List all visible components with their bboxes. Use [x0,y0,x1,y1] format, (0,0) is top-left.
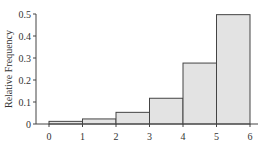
y-tick-label: 0.4 [19,31,32,42]
x-tick-label: 0 [47,131,52,142]
y-tick-label: 0 [26,119,31,130]
y-tick-label: 0.3 [19,53,32,64]
histogram-chart: 00.10.20.30.40.5 0123456 Relative Freque… [0,0,262,145]
histogram-bar [150,98,184,124]
x-tick-label: 6 [248,131,253,142]
y-axis-label: Relative Frequency [3,30,14,108]
x-tick-label: 4 [181,131,186,142]
y-tick-label: 0.2 [19,75,32,86]
x-axis: 0123456 [36,124,258,142]
histogram-bar [183,63,217,124]
x-tick-label: 2 [114,131,119,142]
histogram-bar [116,112,150,124]
histogram-bar [83,119,117,124]
bars-group [49,15,250,124]
y-axis: 00.10.20.30.40.5 [19,9,37,130]
x-tick-label: 1 [80,131,85,142]
x-tick-label: 5 [214,131,219,142]
x-tick-label: 3 [147,131,152,142]
y-tick-label: 0.1 [19,97,32,108]
y-tick-label: 0.5 [19,9,32,20]
histogram-bar [217,15,251,124]
